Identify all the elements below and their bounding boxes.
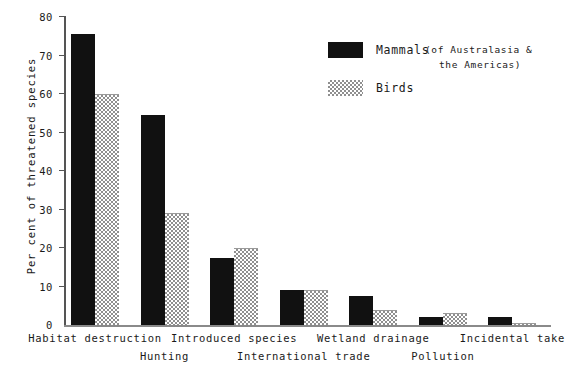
- bar-birds-5: [443, 313, 467, 325]
- bar-birds-1: [165, 213, 189, 325]
- x-axis-label-2: Introduced species: [171, 332, 297, 344]
- y-tick: 60: [0, 88, 74, 100]
- y-tick: 80: [0, 11, 74, 23]
- y-tick: 10: [0, 281, 74, 293]
- bar-mammals-6: [488, 317, 512, 325]
- bar-mammals-1: [141, 115, 165, 325]
- y-tick-label: 0: [46, 319, 53, 331]
- bar-mammals-0: [71, 34, 95, 325]
- y-tick: 70: [0, 50, 74, 62]
- y-tick-label: 80: [39, 11, 53, 23]
- x-axis-label-6: Incidental take: [460, 332, 565, 344]
- bar-mammals-2: [210, 258, 234, 325]
- y-tick-label: 20: [39, 242, 53, 254]
- y-tick: 20: [0, 242, 74, 254]
- solid-black-swatch: [328, 42, 363, 58]
- y-tick-label: 50: [39, 127, 53, 139]
- bar-mammals-4: [349, 296, 373, 325]
- x-axis-label-0: Habitat destruction: [28, 332, 161, 344]
- y-tick-label: 30: [39, 204, 53, 216]
- x-axis-label-4: Wetland drainage: [317, 332, 429, 344]
- y-tick: 30: [0, 204, 74, 216]
- bar-birds-3: [304, 290, 328, 325]
- y-tick-label: 40: [39, 165, 53, 177]
- x-axis-line: [64, 325, 551, 327]
- legend-note-line-1: (of Australasia &: [425, 44, 532, 55]
- bar-mammals-3: [280, 290, 304, 325]
- bar-birds-0: [95, 94, 119, 325]
- y-tick-label: 10: [39, 281, 53, 293]
- x-axis-label-5: Pollution: [411, 350, 474, 362]
- bar-mammals-5: [419, 317, 443, 325]
- y-tick: 40: [0, 165, 74, 177]
- bar-birds-2: [234, 248, 258, 325]
- bar-birds-4: [373, 310, 397, 325]
- y-tick-label: 60: [39, 88, 53, 100]
- x-axis-label-1: Hunting: [140, 350, 189, 362]
- bar-birds-6: [512, 323, 536, 325]
- y-tick: 50: [0, 127, 74, 139]
- legend-note-line-2: the Americas): [425, 57, 532, 72]
- y-tick: 0: [0, 319, 74, 331]
- legend-label-birds: Birds: [376, 81, 414, 95]
- checkered-grey-swatch: [328, 80, 363, 96]
- legend-note: (of Australasia & the Americas): [425, 42, 532, 72]
- legend-label-mammals: Mammals: [376, 43, 429, 57]
- y-tick-label: 70: [39, 50, 53, 62]
- x-axis-label-3: International trade: [237, 350, 370, 362]
- x-axis-labels: Habitat destructionHuntingIntroduced spe…: [0, 332, 563, 370]
